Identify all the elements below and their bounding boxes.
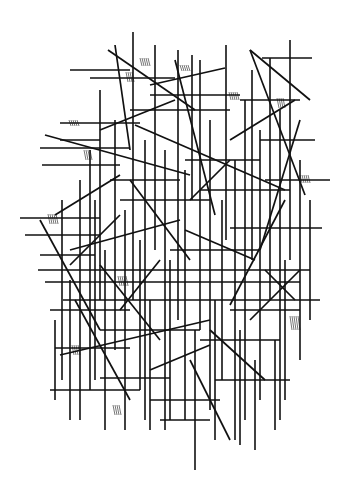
abstract-line-drawing bbox=[0, 0, 347, 489]
canvas-background bbox=[0, 0, 347, 489]
